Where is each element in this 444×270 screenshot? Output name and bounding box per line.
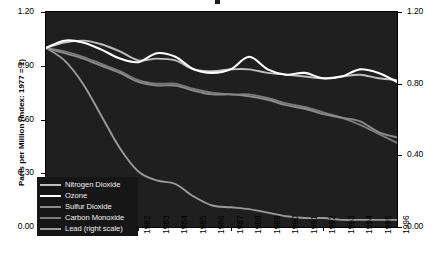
legend-item[interactable]: Sulfur Dioxide [40,201,138,212]
x-axis-tick-label: 1989 [272,215,282,234]
x-axis-tick-label: 1995 [383,215,393,234]
x-axis-tick-label: 1996 [401,215,411,234]
legend-swatch-icon [40,206,61,208]
legend-item[interactable]: Ozone [40,190,138,201]
x-axis-tick-label: 1992 [327,215,337,234]
x-axis-tick-label: 1984 [179,215,189,234]
left-axis-tick-label: 0.00 [18,222,34,231]
x-axis-tick-label: 1988 [253,215,263,234]
chart-page: Parts per Million (index: 1977 = 1) 0.00… [0,0,444,270]
series-line-nitrogen-dioxide [46,41,397,80]
x-axis-tick-label: 1994 [364,215,374,234]
left-axis-tick-label: 0.60 [18,115,34,124]
legend-item[interactable]: Carbon Monoxide [40,212,138,223]
legend-swatch-icon [40,228,61,230]
x-axis-tick-label: 1991 [309,215,319,234]
left-axis-tick-label: 0.30 [18,168,34,177]
right-axis-tick [398,155,402,156]
x-axis-tick [231,228,232,231]
x-axis-tick-label: 1990 [290,215,300,234]
left-axis-tick-label: 0.90 [18,61,34,70]
legend-swatch-icon [40,217,61,219]
x-axis-tick-label: 1985 [198,215,208,234]
series-line-sulfur-dioxide [46,48,397,138]
left-axis-tick-label: 1.20 [18,7,34,16]
x-axis-tick-label: 1993 [346,215,356,234]
legend-item-label: Nitrogen Dioxide [65,181,120,189]
x-axis-tick-label: 1982 [142,215,152,234]
legend-swatch-icon [40,184,61,186]
x-axis-tick-label: 1983 [161,215,171,234]
right-axis-tick [398,12,402,13]
chart-legend: Nitrogen DioxideOzoneSulfur DioxideCarbo… [37,177,138,236]
right-axis-tick-label: 1.20 [407,7,423,16]
clipped-title-descender [215,0,220,4]
x-axis-tick-label: 1987 [235,215,245,234]
left-axis: Parts per Million (index: 1977 = 1) 0.00… [0,0,41,270]
legend-item[interactable]: Nitrogen Dioxide [40,179,138,190]
legend-item-label: Carbon Monoxide [65,214,124,222]
x-axis-tick [323,228,324,231]
legend-swatch-icon [40,195,61,197]
series-line-ozone [46,40,397,82]
legend-item-label: Ozone [65,192,87,200]
right-axis-tick [398,84,402,85]
x-axis-tick [138,228,139,231]
legend-item[interactable]: Lead (right scale) [40,223,138,234]
legend-item-label: Sulfur Dioxide [65,203,112,211]
legend-item-label: Lead (right scale) [65,225,123,233]
x-axis-tick-label: 1986 [216,215,226,234]
right-axis-tick-label: 0.80 [407,79,423,88]
right-axis-tick-label: 0.40 [407,150,423,159]
